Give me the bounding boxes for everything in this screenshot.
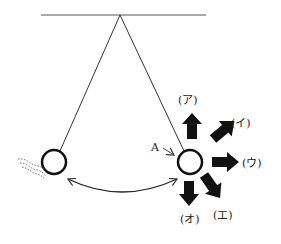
arrow-up-a	[182, 113, 202, 139]
arrow-down-o	[179, 181, 199, 206]
point-a-label: A	[150, 141, 160, 154]
arrow-down-right-e	[196, 169, 228, 203]
point-a-pointer	[163, 148, 174, 155]
arrow-label-i: (イ)	[231, 117, 251, 130]
string-right	[120, 15, 184, 151]
swing-arc	[68, 179, 177, 192]
arrow-label-e: (エ)	[213, 209, 233, 222]
bob-left	[42, 150, 66, 174]
bob-right	[178, 150, 202, 174]
string-left	[60, 15, 120, 151]
arrow-label-a: (ア)	[178, 94, 198, 107]
arrow-label-o: (オ)	[180, 213, 200, 226]
arrow-label-u: (ウ)	[242, 157, 262, 170]
arrow-right-u	[212, 152, 239, 172]
pendulum-diagram: A (ア) (イ) (ウ) (エ) (オ)	[0, 0, 281, 244]
